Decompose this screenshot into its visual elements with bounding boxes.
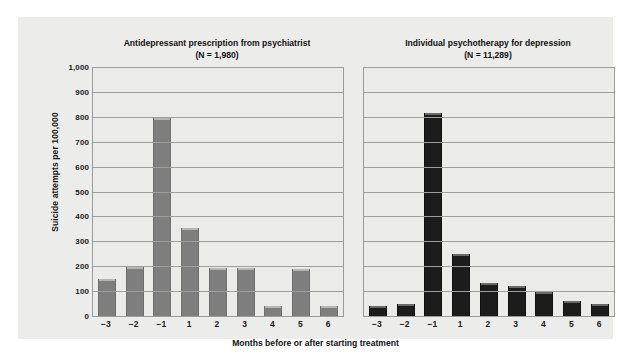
y-axis-tick-label: 900 xyxy=(75,87,89,96)
bar[interactable] xyxy=(264,306,282,316)
bar-highlight-edge xyxy=(425,113,441,115)
bar[interactable] xyxy=(98,279,116,316)
bar-highlight-edge xyxy=(536,292,552,294)
y-axis-tick-label: 600 xyxy=(75,162,89,171)
x-axis-tick-labels-antidepressant: −3−2−1123456 xyxy=(92,319,342,333)
gridline xyxy=(364,192,614,193)
bar-highlight-edge xyxy=(127,267,143,269)
bar[interactable] xyxy=(292,269,310,316)
bar[interactable] xyxy=(320,306,338,316)
gridline xyxy=(93,67,343,68)
bar[interactable] xyxy=(480,283,498,316)
bar-highlight-edge xyxy=(592,304,608,306)
x-axis-tick-label: 5 xyxy=(557,319,585,333)
x-axis-tick-label: 4 xyxy=(259,319,287,333)
gridline xyxy=(364,241,614,242)
y-axis-tick-label: 200 xyxy=(75,262,89,271)
bar-highlight-edge xyxy=(370,306,386,308)
x-axis-tick-labels-psychotherapy: −3−2−1123456 xyxy=(363,319,613,333)
bar[interactable] xyxy=(591,304,609,316)
panel-subtitle-sample-size: (N = 1,980) xyxy=(92,50,342,62)
figure-panel: Suicide attempts per 100,000 1,000900800… xyxy=(18,17,613,339)
gridline xyxy=(364,167,614,168)
y-axis-tick-label: 500 xyxy=(75,187,89,196)
gridline xyxy=(93,117,343,118)
panel-title-antidepressant: Antidepressant prescription from psychia… xyxy=(92,38,342,61)
x-axis-tick-label: 2 xyxy=(474,319,502,333)
bar[interactable] xyxy=(563,301,581,316)
y-axis-tick-label: 400 xyxy=(75,212,89,221)
x-axis-tick-label: −1 xyxy=(419,319,447,333)
chart-figure: Suicide attempts per 100,000 1,000900800… xyxy=(0,0,631,355)
gridline xyxy=(93,216,343,217)
bar-highlight-edge xyxy=(398,304,414,306)
x-axis-tick-label: −3 xyxy=(92,319,120,333)
x-axis-tick-label: 5 xyxy=(286,319,314,333)
y-axis-tick-label: 1,000 xyxy=(68,63,89,72)
x-axis-tick-label: −2 xyxy=(120,319,148,333)
x-axis-tick-label: 3 xyxy=(231,319,259,333)
gridline xyxy=(93,92,343,93)
x-axis-tick-label: −3 xyxy=(363,319,391,333)
x-axis-tick-label: 3 xyxy=(502,319,530,333)
bar[interactable] xyxy=(369,306,387,316)
x-axis-tick-label: 6 xyxy=(585,319,613,333)
gridline xyxy=(93,291,343,292)
gridline xyxy=(364,291,614,292)
plot-area-antidepressant xyxy=(92,67,344,317)
x-axis-tick-label: 4 xyxy=(530,319,558,333)
bar-highlight-edge xyxy=(321,306,337,308)
bar[interactable] xyxy=(452,254,470,316)
gridline xyxy=(364,266,614,267)
panel-subtitle-sample-size: (N = 11,289) xyxy=(363,50,613,62)
y-axis-tick-label: 100 xyxy=(75,287,89,296)
gridline xyxy=(93,167,343,168)
bar-highlight-edge xyxy=(154,118,170,120)
x-axis-tick-label: 1 xyxy=(175,319,203,333)
y-axis-tick-label: 0 xyxy=(84,312,89,321)
bar-highlight-edge xyxy=(509,286,525,288)
bar[interactable] xyxy=(397,304,415,316)
y-axis-tick-label: 800 xyxy=(75,112,89,121)
y-axis-tick-label: 700 xyxy=(75,137,89,146)
bar-highlight-edge xyxy=(293,269,309,271)
bar-highlight-edge xyxy=(238,268,254,270)
x-axis-tick-label: 2 xyxy=(203,319,231,333)
x-axis-tick-label: −2 xyxy=(391,319,419,333)
gridline xyxy=(93,192,343,193)
panel-title-line1: Individual psychotherapy for depression xyxy=(363,38,613,50)
gridline xyxy=(93,142,343,143)
y-axis-tick-label: 300 xyxy=(75,237,89,246)
bar-highlight-edge xyxy=(182,228,198,230)
panel-title-line1: Antidepressant prescription from psychia… xyxy=(92,38,342,50)
y-axis-tick-labels: 1,0009008007006005004003002001000 xyxy=(56,61,89,323)
bar[interactable] xyxy=(535,292,553,316)
bar-highlight-edge xyxy=(564,301,580,303)
gridline xyxy=(364,216,614,217)
gridline xyxy=(364,67,614,68)
gridline xyxy=(93,241,343,242)
x-axis-tick-label: 6 xyxy=(314,319,342,333)
plot-area-psychotherapy xyxy=(363,67,615,317)
bar-highlight-edge xyxy=(265,306,281,308)
gridline xyxy=(364,92,614,93)
gridline xyxy=(364,142,614,143)
x-axis-tick-label: −1 xyxy=(148,319,176,333)
panel-title-psychotherapy: Individual psychotherapy for depression … xyxy=(363,38,613,61)
gridline xyxy=(364,117,614,118)
x-axis-title: Months before or after starting treatmen… xyxy=(18,338,613,348)
bar[interactable] xyxy=(424,113,442,316)
bar-highlight-edge xyxy=(99,279,115,281)
gridline xyxy=(93,266,343,267)
bar-highlight-edge xyxy=(481,283,497,285)
bar-highlight-edge xyxy=(210,268,226,270)
x-axis-tick-label: 1 xyxy=(446,319,474,333)
bar-highlight-edge xyxy=(453,254,469,256)
